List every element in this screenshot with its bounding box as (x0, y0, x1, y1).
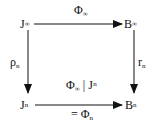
node-sup: n (133, 101, 137, 109)
node-b-infinity: B∞ (124, 18, 137, 30)
node-sup: n (25, 101, 29, 109)
label-phi-infinity: Φ∞ (74, 4, 88, 18)
node-sup: ∞ (25, 20, 30, 28)
label-sub: ∞ (83, 10, 88, 18)
label-r-n: rn (138, 56, 146, 70)
label-base: Φ (74, 3, 83, 17)
label-equals-phi-n: = Φn (71, 108, 93, 122)
label-sup: n (93, 80, 97, 88)
node-base: B (124, 17, 132, 31)
node-b-n: Bn (125, 99, 137, 111)
node-j-n: Jn (20, 99, 28, 111)
node-sup: ∞ (132, 20, 137, 28)
label-base: = Φ (71, 107, 90, 121)
label-sub: n (90, 114, 94, 122)
label-restriction: Φ∞ | Jn (66, 79, 97, 93)
label-rho-n: ρn (10, 56, 20, 70)
label-base: Φ (66, 78, 75, 92)
node-base: B (125, 98, 133, 112)
node-j-infinity: J∞ (20, 18, 30, 30)
label-rest: | J (80, 78, 93, 92)
label-sub: ∞ (75, 85, 80, 93)
label-sub: n (16, 62, 20, 70)
label-sub: n (142, 62, 146, 70)
